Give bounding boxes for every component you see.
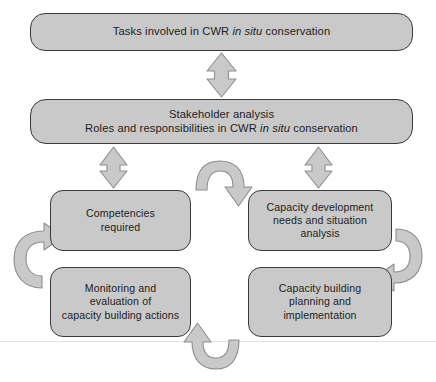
node-capacity-building-planning-line-2: planning and	[257, 295, 383, 308]
connector-capacity-building-to-monitoring-arrow	[184, 323, 239, 369]
node-stakeholder-analysis: Stakeholder analysis Roles and responsib…	[30, 99, 413, 144]
node-capacity-development-needs-line-1: Capacity development	[257, 201, 383, 214]
node-tasks: Tasks involved in CWR in situ conservati…	[30, 13, 413, 51]
node-monitoring-evaluation-text: Monitoring and evaluation of capacity bu…	[51, 282, 190, 321]
connector-stakeholder-capacity-development-arrow	[305, 147, 332, 188]
node-monitoring-evaluation-line-2: evaluation of	[59, 295, 182, 308]
node-capacity-building-planning: Capacity building planning and implement…	[248, 267, 392, 337]
node-tasks-line-1: Tasks involved in CWR in situ conservati…	[39, 25, 404, 39]
node-capacity-development-needs-line-2: needs and situation	[257, 214, 383, 227]
node-stakeholder-analysis-text: Stakeholder analysis Roles and responsib…	[31, 108, 412, 136]
node-capacity-development-needs-text: Capacity development needs and situation…	[249, 201, 391, 240]
connector-stakeholder-competencies-arrow	[100, 147, 127, 188]
cwr-capacity-cycle-diagram: Tasks involved in CWR in situ conservati…	[0, 0, 436, 382]
node-monitoring-evaluation-line-3: capacity building actions	[59, 309, 182, 322]
connector-tasks-stakeholder-arrow	[207, 53, 236, 97]
node-stakeholder-analysis-line-2: Roles and responsibilities in CWR in sit…	[39, 122, 404, 136]
node-capacity-development-needs: Capacity development needs and situation…	[248, 190, 392, 251]
node-competencies-required: Competencies required	[50, 190, 191, 251]
node-competencies-required-text: Competencies required	[51, 207, 190, 233]
node-capacity-building-planning-line-3: implementation	[257, 309, 383, 322]
node-capacity-development-needs-line-3: analysis	[257, 227, 383, 240]
node-tasks-text: Tasks involved in CWR in situ conservati…	[31, 25, 412, 39]
node-stakeholder-analysis-line-1: Stakeholder analysis	[39, 108, 404, 122]
scan-artifact-line	[0, 341, 436, 342]
node-capacity-building-planning-text: Capacity building planning and implement…	[249, 282, 391, 321]
node-monitoring-evaluation-line-1: Monitoring and	[59, 282, 182, 295]
node-capacity-building-planning-line-1: Capacity building	[257, 282, 383, 295]
connector-competencies-to-capacity-development-arrow	[196, 161, 252, 206]
node-competencies-required-line-2: required	[59, 221, 182, 234]
node-monitoring-evaluation: Monitoring and evaluation of capacity bu…	[50, 267, 191, 337]
node-competencies-required-line-1: Competencies	[59, 207, 182, 220]
